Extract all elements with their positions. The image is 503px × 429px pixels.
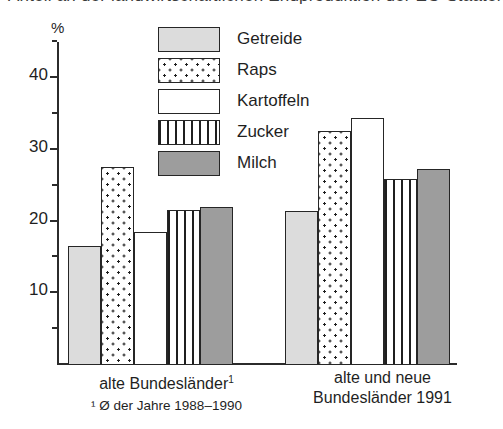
y-tick-45 bbox=[52, 40, 57, 42]
y-axis-label-40: 40 bbox=[29, 65, 48, 85]
legend-label-zucker: Zucker bbox=[237, 122, 289, 142]
bar-getreide-group-2 bbox=[285, 211, 318, 365]
group-caption-alte-bundeslaender: alte Bundesländer1 ¹ Ø der Jahre 1988–19… bbox=[54, 370, 279, 416]
bar-kartoffeln-group-2 bbox=[351, 118, 384, 365]
chart-title-clipped: Anteil an der landwirtschaftlichen Endpr… bbox=[0, 0, 503, 8]
chart-legend: GetreideRapsKartoffelnZuckerMilch bbox=[158, 26, 309, 176]
legend-swatch-kartoffeln bbox=[158, 89, 220, 114]
y-axis-label-10: 10 bbox=[29, 280, 48, 300]
y-axis-line bbox=[57, 42, 59, 365]
y-tick-35 bbox=[52, 112, 57, 114]
bar-milch-group-2 bbox=[417, 169, 450, 365]
footnote-text: ¹ Ø der Jahre 1988–1990 bbox=[54, 396, 279, 416]
bar-raps-group-1 bbox=[101, 167, 134, 365]
legend-item-milch: Milch bbox=[158, 150, 309, 176]
legend-item-kartoffeln: Kartoffeln bbox=[158, 88, 309, 114]
group-caption-alte-und-neue-bundeslaender: alte und neue Bundesländer 1991 bbox=[285, 368, 480, 408]
legend-item-zucker: Zucker bbox=[158, 119, 309, 145]
group-1-label: alte Bundesländer1 bbox=[54, 370, 279, 394]
bar-kartoffeln-group-1 bbox=[134, 232, 167, 365]
legend-swatch-getreide bbox=[158, 27, 220, 52]
bar-raps-group-2 bbox=[318, 131, 351, 365]
bar-getreide-group-1 bbox=[68, 246, 101, 365]
y-axis-label-20: 20 bbox=[29, 209, 48, 229]
y-tick-25 bbox=[52, 184, 57, 186]
legend-item-getreide: Getreide bbox=[158, 26, 309, 52]
y-tick-5 bbox=[52, 327, 57, 329]
legend-swatch-zucker bbox=[158, 120, 220, 145]
group-2-label-line1: alte und neue bbox=[285, 368, 480, 388]
legend-swatch-milch bbox=[158, 151, 220, 176]
legend-swatch-raps bbox=[158, 58, 220, 83]
legend-label-milch: Milch bbox=[237, 153, 277, 173]
y-tick-10 bbox=[50, 291, 57, 293]
footnote-marker: 1 bbox=[228, 374, 234, 385]
bar-zucker-group-1 bbox=[167, 210, 200, 365]
y-tick-40 bbox=[50, 76, 57, 78]
bar-milch-group-1 bbox=[200, 207, 233, 365]
y-axis-label-30: 30 bbox=[29, 137, 48, 157]
legend-item-raps: Raps bbox=[158, 57, 309, 83]
bar-zucker-group-2 bbox=[384, 179, 417, 365]
y-tick-20 bbox=[50, 220, 57, 222]
y-tick-30 bbox=[50, 148, 57, 150]
y-axis-unit-label: % bbox=[51, 19, 64, 36]
legend-label-raps: Raps bbox=[237, 60, 277, 80]
legend-label-getreide: Getreide bbox=[237, 29, 302, 49]
group-2-label-line2: Bundesländer 1991 bbox=[285, 388, 480, 408]
legend-label-kartoffeln: Kartoffeln bbox=[237, 91, 309, 111]
chart-title-text: Anteil an der landwirtschaftlichen Endpr… bbox=[0, 0, 503, 6]
y-tick-15 bbox=[52, 255, 57, 257]
